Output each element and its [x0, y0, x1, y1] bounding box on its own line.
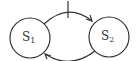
diagram-canvas [0, 0, 136, 61]
transition-s2-to-s1 [45, 51, 95, 61]
state-s2-label: S2 [101, 30, 114, 44]
state-diagram: S1 S2 [0, 0, 136, 61]
state-s1-label: S1 [22, 31, 35, 45]
